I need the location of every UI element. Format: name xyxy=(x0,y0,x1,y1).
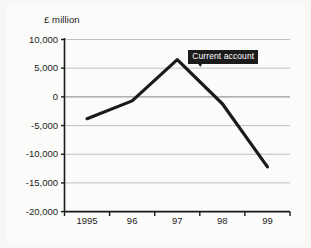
x-tick-label: 1995 xyxy=(76,215,97,226)
y-tick-label: 5,000 xyxy=(34,63,58,73)
y-tick-label: 0 xyxy=(53,92,58,102)
x-tick-label: 97 xyxy=(172,215,183,226)
y-tick-label: -20,000 xyxy=(26,207,58,217)
gridlines xyxy=(65,40,291,212)
chart-figure: £ million 10,0005,0000-5,000-10,000-15,0… xyxy=(0,0,311,248)
x-tick-label: 96 xyxy=(127,215,138,226)
x-tick-label: 98 xyxy=(217,215,228,226)
x-tick-label: 99 xyxy=(262,215,273,226)
y-tick-label: -10,000 xyxy=(26,149,58,159)
annotation-label-current-account: Current account xyxy=(188,50,258,64)
y-tick-label: -5,000 xyxy=(31,121,58,131)
y-tick-label: -15,000 xyxy=(26,178,58,188)
series-line-current-account xyxy=(87,60,267,167)
y-tick-label: 10,000 xyxy=(29,35,58,45)
